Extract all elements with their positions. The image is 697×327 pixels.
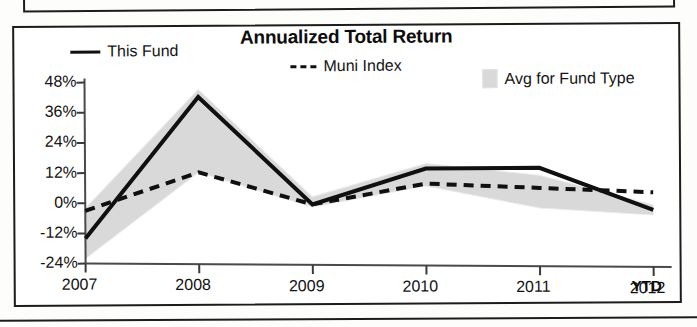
x-axis-ytd-label: YTD	[632, 277, 662, 294]
page-box-fragment-above	[23, 0, 675, 13]
x-axis-tick-labels: 200720082009201020112012	[12, 22, 682, 307]
x-axis-tick-label: 2007	[62, 276, 98, 294]
scanned-page: Annualized Total Return This Fund Muni I…	[0, 0, 697, 327]
x-axis-tick-label: 2011	[516, 278, 551, 296]
page-rule-below	[0, 316, 697, 322]
x-axis-tick-label: 2008	[175, 276, 211, 294]
x-axis-tick-label: 2010	[402, 278, 438, 296]
chart-content: Annualized Total Return This Fund Muni I…	[12, 22, 682, 307]
x-axis-tick-label: 2009	[289, 277, 325, 295]
